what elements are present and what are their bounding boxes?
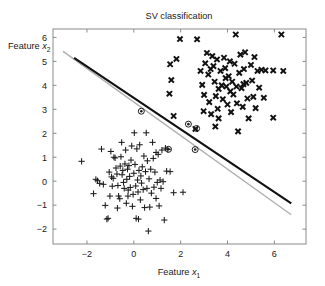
y-tick-label: −2 [37,224,47,234]
x-axis-label: Feature x1 [158,267,201,279]
y-tick-label: −1 [37,200,47,210]
support-vector-dot [195,127,198,130]
support-vector-dot [187,123,190,126]
y-tick-label: 1 [42,153,47,163]
x-tick-label: 0 [131,249,136,259]
x-tick-label: 2 [178,249,183,259]
support-vector-dot [167,148,170,151]
y-tick-label: 5 [42,57,47,67]
y-tick-label: 2 [42,129,47,139]
x-tick-label: 6 [272,249,277,259]
chart-title: SV classification [146,11,213,21]
x-tick-label: −2 [82,249,92,259]
chart-background [0,0,325,286]
y-tick-label: 4 [42,81,47,91]
y-tick-label: 3 [42,105,47,115]
support-vector-dot [194,148,197,151]
y-axis-label: Feature x2 [8,41,51,53]
figure-container: SV classification −20246 −2−10123456 Fea… [0,0,325,286]
sv-classification-chart: SV classification −20246 −2−10123456 Fea… [0,0,325,286]
support-vector-dot [140,110,143,113]
y-tick-label: 0 [42,177,47,187]
x-tick-label: 4 [225,249,230,259]
